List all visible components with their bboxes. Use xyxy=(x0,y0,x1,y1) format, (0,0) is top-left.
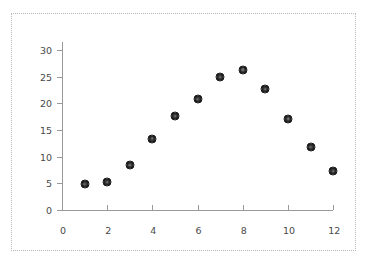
data-point xyxy=(329,167,338,176)
x-axis-tick-label: 6 xyxy=(196,226,202,236)
x-axis-tick xyxy=(198,205,199,210)
y-axis-line xyxy=(62,42,63,210)
data-point xyxy=(103,178,112,187)
x-axis-tick xyxy=(107,205,108,210)
x-axis-tick-label: 10 xyxy=(283,226,295,236)
data-point xyxy=(80,180,89,189)
y-axis-tick xyxy=(57,157,62,158)
data-point xyxy=(261,85,270,94)
y-axis-tick-label: 5 xyxy=(26,180,52,190)
y-axis-tick-label: 15 xyxy=(26,126,52,136)
x-axis-tick xyxy=(152,205,153,210)
y-axis-tick xyxy=(57,103,62,104)
data-point xyxy=(216,73,225,82)
data-point xyxy=(148,134,157,143)
y-axis-tick-label: 30 xyxy=(26,46,52,56)
scatter-plot: 051015202530024681012 xyxy=(0,0,371,272)
x-axis-tick-label: 8 xyxy=(241,226,247,236)
data-point xyxy=(238,65,247,74)
y-axis-tick xyxy=(57,50,62,51)
y-axis-tick xyxy=(57,130,62,131)
x-axis-tick-label: 0 xyxy=(60,226,66,236)
x-axis-line xyxy=(62,210,333,211)
data-point xyxy=(125,161,134,170)
y-axis-tick xyxy=(57,77,62,78)
x-axis-tick xyxy=(288,205,289,210)
y-axis-tick-label: 10 xyxy=(26,153,52,163)
x-axis-tick xyxy=(62,205,63,210)
x-axis-tick-label: 2 xyxy=(105,226,111,236)
x-axis-tick xyxy=(333,205,334,210)
y-axis-tick xyxy=(57,210,62,211)
x-axis-tick-label: 4 xyxy=(150,226,156,236)
y-axis-tick-label: 20 xyxy=(26,100,52,110)
data-point xyxy=(193,95,202,104)
data-point xyxy=(284,114,293,123)
x-axis-tick xyxy=(243,205,244,210)
y-axis-tick xyxy=(57,183,62,184)
data-point xyxy=(306,143,315,152)
x-axis-tick-label: 12 xyxy=(328,226,340,236)
figure: 051015202530024681012 xyxy=(0,0,371,272)
data-point xyxy=(171,112,180,121)
y-axis-tick-label: 25 xyxy=(26,73,52,83)
y-axis-tick-label: 0 xyxy=(26,206,52,216)
